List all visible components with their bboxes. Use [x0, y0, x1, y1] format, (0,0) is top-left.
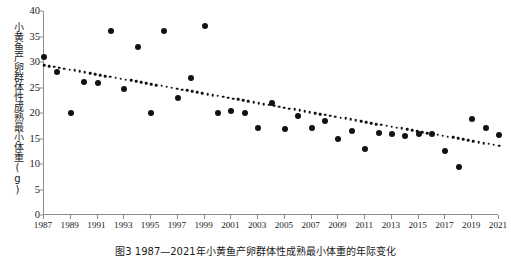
- x-tick-mark: [498, 215, 499, 219]
- x-tick-mark: [70, 215, 71, 219]
- x-tick-label: 2011: [355, 221, 373, 230]
- x-tick-label: 2009: [328, 221, 346, 230]
- x-tick-label: 1995: [141, 221, 159, 230]
- x-tick-label: 2021: [489, 221, 507, 230]
- x-tick-label: 1997: [168, 221, 186, 230]
- x-tick-label: 2005: [275, 221, 293, 230]
- x-tick-mark: [284, 215, 285, 219]
- x-tick-label: 1987: [34, 221, 52, 230]
- x-tick-label: 1993: [114, 221, 132, 230]
- x-tick-mark: [43, 215, 44, 219]
- x-tick-label: 1999: [194, 221, 212, 230]
- x-tick-label: 1991: [87, 221, 105, 230]
- y-tick-mark: [39, 36, 43, 37]
- y-axis-title: 小黄鱼产卵群体性成熟最小体重(g): [7, 22, 22, 195]
- y-tick-mark: [39, 138, 43, 139]
- x-tick-mark: [337, 215, 338, 219]
- x-tick-mark: [257, 215, 258, 219]
- x-tick-mark: [418, 215, 419, 219]
- x-tick-label: 2017: [435, 221, 453, 230]
- x-tick-mark: [444, 215, 445, 219]
- y-tick-mark: [39, 215, 43, 216]
- y-tick-mark: [39, 113, 43, 114]
- x-tick-label: 2019: [462, 221, 480, 230]
- x-tick-mark: [97, 215, 98, 219]
- y-tick-mark: [39, 62, 43, 63]
- y-tick-mark: [39, 87, 43, 88]
- x-tick-label: 2015: [409, 221, 427, 230]
- x-tick-label: 2007: [301, 221, 319, 230]
- x-tick-mark: [230, 215, 231, 219]
- x-tick-mark: [391, 215, 392, 219]
- x-tick-mark: [177, 215, 178, 219]
- x-tick-label: 2001: [221, 221, 239, 230]
- y-tick-mark: [39, 189, 43, 190]
- x-tick-label: 2003: [248, 221, 266, 230]
- x-tick-mark: [311, 215, 312, 219]
- y-tick-mark: [39, 164, 43, 165]
- y-tick-mark: [39, 11, 43, 12]
- x-tick-mark: [364, 215, 365, 219]
- x-tick-mark: [150, 215, 151, 219]
- x-tick-label: 2013: [382, 221, 400, 230]
- x-tick-mark: [204, 215, 205, 219]
- x-tick-label: 1989: [61, 221, 79, 230]
- x-tick-mark: [123, 215, 124, 219]
- x-tick-mark: [471, 215, 472, 219]
- figure-caption: 图3 1987—2021年小黄鱼产卵群体性成熟最小体重的年际变化: [0, 243, 511, 258]
